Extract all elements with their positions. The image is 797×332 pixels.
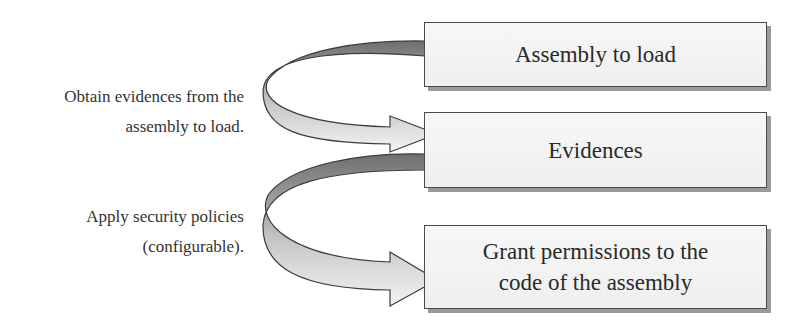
curved-arrow-icon — [263, 154, 437, 306]
box-assembly-to-load: Assembly to load — [424, 22, 767, 87]
curved-arrow-icon — [263, 41, 437, 152]
box-text: Evidences — [548, 135, 643, 166]
arrow-label-line: Obtain evidences from the — [64, 82, 244, 112]
box-text: code of the assembly — [483, 267, 709, 298]
arrow-label-obtain-evidences: Obtain evidences from the assembly to lo… — [64, 82, 244, 142]
arrow-label-line: Apply security policies — [86, 202, 244, 232]
arrow-label-line: (configurable). — [86, 232, 244, 262]
box-text: Grant permissions to the — [483, 236, 709, 267]
box-text: Assembly to load — [515, 39, 676, 70]
box-grant-permissions: Grant permissions to the code of the ass… — [424, 225, 767, 309]
arrow-label-line: assembly to load. — [64, 112, 244, 142]
box-evidences: Evidences — [424, 112, 767, 188]
arrow-label-apply-policies: Apply security policies (configurable). — [86, 202, 244, 262]
